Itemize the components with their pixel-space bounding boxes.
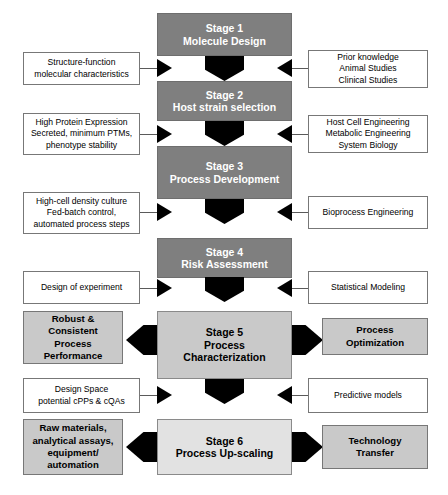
left-input-5-line-2: potential cPPs & cQAs [38,396,124,407]
left-input-5-box[interactable]: Design Space potential cPPs & cQAs [23,378,140,413]
stage-3-number: Stage 3 [206,160,243,172]
arrow-left-into-stage-4-a [277,203,292,221]
stage-1-name: Molecule Design [183,35,266,47]
stage-5-number: Stage 5 [206,326,243,338]
right-input-5-line-1: Predictive models [334,390,402,401]
stage-3-box[interactable]: Stage 3 Process Development [157,146,292,199]
left-outcome-stage-5-line-3: Process [54,338,91,350]
stage-5-name-2: Characterization [183,351,265,363]
right-input-1-box[interactable]: Prior knowledge Animal Studies Clinical … [308,50,428,88]
left-outcome-stage-5-line-4: Performance [44,350,103,362]
left-input-2-line-2: Secreted, minimum PTMs, [31,128,132,139]
left-input-2-line-1: High Protein Expression [35,117,127,128]
right-input-2-line-3: System Biology [338,140,397,151]
left-input-3-line-3: automated process steps [33,219,129,230]
stage-6-name: Process Up-scaling [176,447,273,459]
stage-2-number: Stage 2 [206,89,243,101]
arrow-right-into-stage-6-a [157,386,172,404]
stage-3-name: Process Development [170,173,280,185]
right-input-4-line-1: Statistical Modeling [331,282,405,293]
right-outcome-stage-6-line-1: Technology [348,435,401,447]
left-outcome-stage-5-line-2: Consistent [48,325,98,337]
right-input-4-box[interactable]: Statistical Modeling [308,271,428,304]
stage-2-name: Host strain selection [173,101,276,113]
left-input-3-line-2: Fed-batch control, [47,207,116,218]
left-input-2-line-3: phenotype stability [46,140,117,151]
left-outcome-stage-6-box[interactable]: Raw materials, analytical assays, equipm… [23,419,123,475]
right-outcome-stage-6-line-2: Transfer [356,447,394,459]
arrow-right-into-stage-3-a [157,125,172,143]
right-input-2-line-2: Metabolic Engineering [325,128,410,139]
right-input-1-line-1: Prior knowledge [337,52,399,63]
arrow-left-into-stage-2-a [277,59,292,77]
arrow-down-stage-5-to-6 [205,379,244,404]
right-input-3-line-1: Bioprocess Engineering [323,207,414,218]
left-input-3-line-1: High-cell density culture [36,196,127,207]
left-input-2-box[interactable]: High Protein Expression Secreted, minimu… [23,113,140,155]
left-input-1-line-1: Structure-function [48,57,116,68]
left-outcome-stage-5-line-1: Robust & [52,313,95,325]
arrow-down-stage-1-to-2 [205,56,244,81]
left-input-5-line-1: Design Space [55,384,109,395]
stage-4-name: Risk Assessment [181,258,268,270]
stage-1-box[interactable]: Stage 1 Molecule Design [157,13,292,56]
diagram-canvas: Stage 1 Molecule Design Structure-functi… [0,0,448,495]
arrow-left-into-stage-5-a [277,279,292,297]
stage-6-number: Stage 6 [206,435,243,447]
right-input-1-line-2: Animal Studies [339,63,396,74]
right-input-2-line-1: Host Cell Engineering [326,117,409,128]
right-input-1-line-3: Clinical Studies [339,75,398,86]
stage-4-box[interactable]: Stage 4 Risk Assessment [157,238,292,278]
right-input-3-box[interactable]: Bioprocess Engineering [308,196,428,229]
arrow-right-into-stage-4-a [157,203,172,221]
left-outcome-stage-6-line-1: Raw materials, [39,422,106,434]
right-outcome-stage-5-box[interactable]: Process Optimization [322,318,428,355]
right-input-2-box[interactable]: Host Cell Engineering Metabolic Engineer… [308,115,428,153]
stage-2-box[interactable]: Stage 2 Host strain selection [157,81,292,121]
stage-6-box[interactable]: Stage 6 Process Up-scaling [157,419,292,475]
left-input-1-line-2: molecular characteristics [34,69,129,80]
right-outcome-stage-5-line-2: Optimization [346,337,404,349]
left-input-1-box[interactable]: Structure-function molecular characteris… [23,52,140,85]
right-input-5-box[interactable]: Predictive models [308,378,428,413]
arrow-left-into-stage-6-a [277,386,292,404]
arrow-right-into-stage-5-a [157,279,172,297]
left-outcome-stage-5-box[interactable]: Robust & Consistent Process Performance [23,311,123,364]
left-outcome-stage-6-line-2: analytical assays, [32,435,113,447]
stage-1-number: Stage 1 [206,22,243,34]
left-input-4-line-1: Design of experiment [41,282,122,293]
stage-4-number: Stage 4 [206,246,243,258]
arrow-down-stage-2-to-3 [205,121,244,146]
left-input-3-box[interactable]: High-cell density culture Fed-batch cont… [23,192,140,234]
stage-5-box[interactable]: Stage 5 Process Characterization [157,311,292,379]
left-outcome-stage-6-line-3: equipment/ [47,447,98,459]
right-outcome-stage-6-box[interactable]: Technology Transfer [322,425,428,469]
arrow-left-into-stage-3-a [277,125,292,143]
right-outcome-stage-5-line-1: Process [356,324,393,336]
arrow-right-into-stage-2-a [157,59,172,77]
stage-5-name-1: Process [204,339,245,351]
left-input-4-box[interactable]: Design of experiment [23,271,140,304]
arrow-down-stage-4-to-5 [205,277,244,302]
arrow-down-stage-3-to-4 [205,199,244,224]
left-outcome-stage-6-line-4: automation [47,459,99,471]
